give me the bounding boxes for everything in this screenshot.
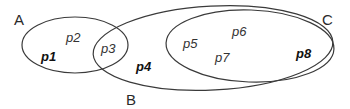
region-p7-label: p7 bbox=[214, 50, 230, 65]
region-p5-label: p5 bbox=[182, 36, 198, 51]
region-p1-label: p1 bbox=[40, 49, 56, 64]
set-c-label: C bbox=[322, 11, 333, 28]
venn-canvas: ABCp1p2p3p4p5p6p7p8 bbox=[0, 0, 350, 109]
set-a-label: A bbox=[14, 11, 24, 28]
set-b-label: B bbox=[126, 91, 136, 108]
venn-diagram: ABCp1p2p3p4p5p6p7p8 bbox=[0, 0, 350, 109]
region-p6-label: p6 bbox=[231, 24, 247, 39]
region-p2-label: p2 bbox=[65, 30, 81, 45]
region-p3-label: p3 bbox=[100, 41, 116, 56]
region-p4-label: p4 bbox=[135, 59, 152, 74]
region-p8-label: p8 bbox=[295, 46, 312, 61]
